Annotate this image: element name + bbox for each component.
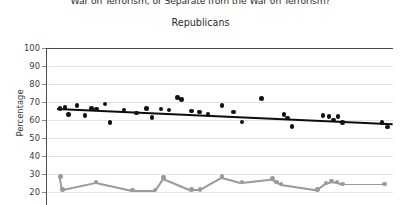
- data-point: [103, 102, 108, 107]
- series-line-separate: [62, 182, 96, 191]
- data-point: [331, 118, 336, 123]
- data-point: [240, 180, 245, 185]
- series-line-separate: [163, 178, 192, 191]
- data-point: [134, 111, 139, 116]
- data-point: [198, 187, 203, 192]
- data-point: [220, 103, 225, 108]
- data-point: [108, 120, 113, 125]
- plot-top-border: [46, 48, 393, 49]
- data-point: [75, 103, 80, 108]
- data-point: [63, 105, 68, 110]
- data-point: [167, 108, 172, 113]
- series-line-separate: [96, 182, 133, 192]
- data-point: [240, 120, 245, 125]
- series-line-separate: [133, 190, 155, 192]
- y-axis-tick-label: 30: [0, 170, 40, 178]
- data-point: [324, 181, 329, 186]
- plot-area: [46, 48, 393, 205]
- gridline: [47, 156, 393, 157]
- data-point: [340, 120, 345, 125]
- y-axis-tick-label: 60: [0, 116, 40, 124]
- data-point: [197, 110, 202, 115]
- data-point: [315, 187, 320, 192]
- y-axis-tick: [42, 192, 46, 193]
- gridline: [47, 66, 393, 67]
- data-point: [382, 182, 387, 187]
- data-point: [60, 187, 65, 192]
- data-point: [161, 175, 166, 180]
- y-axis-tick-label: 100: [0, 44, 40, 52]
- y-axis-tick: [42, 138, 46, 139]
- y-axis-line: [46, 48, 47, 205]
- data-point: [89, 106, 94, 111]
- data-point: [340, 182, 345, 187]
- data-point: [150, 115, 155, 120]
- series-line-separate: [242, 178, 273, 183]
- y-axis-tick-label: 50: [0, 134, 40, 142]
- data-point: [385, 125, 390, 130]
- data-point: [144, 106, 149, 111]
- y-axis-tick: [42, 48, 46, 49]
- chart-subtitle: Republicans: [0, 17, 401, 28]
- chart-title: War on Terrorism, or Separate from the W…: [0, 0, 401, 6]
- y-axis-tick-label: 90: [0, 62, 40, 70]
- data-point: [336, 114, 341, 119]
- y-axis-tick: [42, 120, 46, 121]
- series-line-separate: [199, 177, 222, 191]
- y-axis-tick: [42, 156, 46, 157]
- data-point: [83, 113, 88, 118]
- data-point: [380, 120, 385, 125]
- data-point: [189, 187, 194, 192]
- y-axis-tick: [42, 66, 46, 67]
- data-point: [290, 124, 295, 129]
- y-axis-tick-label: 80: [0, 80, 40, 88]
- data-point: [66, 112, 71, 117]
- y-axis-tick-label: 20: [0, 188, 40, 196]
- y-axis-tick: [42, 174, 46, 175]
- data-point: [189, 109, 194, 114]
- gridline: [47, 84, 393, 85]
- series-line-separate: [281, 184, 318, 191]
- y-axis-tick: [42, 102, 46, 103]
- data-point: [58, 106, 63, 111]
- series-line-separate: [343, 184, 385, 186]
- gridline: [47, 138, 393, 139]
- data-point: [259, 96, 264, 101]
- data-point: [58, 174, 63, 179]
- data-point: [179, 97, 184, 102]
- y-axis-tick: [42, 84, 46, 85]
- data-point: [159, 107, 164, 112]
- chart-figure: War on Terrorism, or Separate from the W…: [0, 0, 401, 205]
- gridline: [47, 192, 393, 193]
- data-point: [231, 110, 236, 115]
- series-line-separate: [222, 177, 242, 184]
- y-axis-tick-label: 40: [0, 152, 40, 160]
- y-axis-tick-label: 70: [0, 98, 40, 106]
- data-point: [321, 113, 326, 118]
